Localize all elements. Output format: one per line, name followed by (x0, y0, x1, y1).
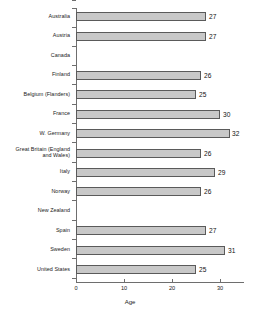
y-axis-tick (72, 8, 76, 9)
age-bar-chart: Australia 27 Austria 27 Canada Finland 2… (0, 0, 260, 319)
bar-value-finland: 26 (204, 71, 211, 80)
bar-value-belgium: 25 (199, 90, 206, 99)
category-label-sweden: Sweden (50, 246, 70, 252)
y-axis-tick (72, 0, 76, 1)
bar-belgium (76, 90, 196, 99)
x-axis-tick-label-0: 0 (66, 285, 86, 292)
category-label-canada: Canada (51, 52, 70, 58)
category-label-new-zealand: New Zealand (38, 207, 70, 213)
category-label-west-germany: W. Germany (40, 130, 70, 136)
bar-spain (76, 226, 206, 235)
plot-area: Australia 27 Austria 27 Canada Finland 2… (0, 0, 260, 319)
category-label-france: France (53, 110, 70, 116)
x-axis-tick (172, 279, 173, 282)
y-axis-tick (72, 142, 76, 143)
bar-value-spain: 27 (209, 226, 216, 235)
x-axis-title: Age (0, 299, 260, 305)
y-axis-tick (72, 46, 76, 47)
category-label-spain: Spain (56, 227, 70, 233)
y-axis-tick (72, 181, 76, 182)
bar-italy (76, 168, 215, 177)
bar-value-united-states: 25 (199, 265, 206, 274)
bar-value-great-britain: 26 (204, 149, 211, 158)
bar-value-australia: 27 (209, 12, 216, 21)
x-axis-tick (76, 279, 77, 282)
bar-value-france: 30 (223, 110, 230, 119)
bar-value-italy: 29 (218, 168, 225, 177)
x-axis-line (76, 282, 244, 283)
x-axis-tick (124, 279, 125, 282)
bar-austria (76, 32, 206, 41)
bar-value-west-germany: 32 (232, 129, 239, 138)
bar-value-norway: 26 (204, 187, 211, 196)
y-axis-tick (72, 65, 76, 66)
bar-australia (76, 12, 206, 21)
category-label-united-states: United States (37, 266, 70, 272)
category-label-australia: Australia (49, 13, 70, 19)
category-label-norway: Norway (51, 188, 70, 194)
bar-united-states (76, 265, 196, 274)
bar-value-sweden: 31 (228, 246, 235, 255)
x-axis-tick-label-30: 30 (210, 285, 230, 292)
bar-norway (76, 187, 201, 196)
y-axis-tick (72, 84, 76, 85)
y-axis-tick (72, 258, 76, 259)
y-axis-tick (72, 104, 76, 105)
y-axis-tick (72, 162, 76, 163)
bar-great-britain (76, 149, 201, 158)
bar-france (76, 110, 220, 119)
category-label-finland: Finland (52, 71, 70, 77)
y-axis-tick (72, 239, 76, 240)
y-axis-tick (72, 123, 76, 124)
category-label-belgium: Belgium (Flanders) (24, 91, 70, 97)
y-axis-tick (72, 200, 76, 201)
x-axis-tick-label-20: 20 (162, 285, 182, 292)
x-axis-tick-label-10: 10 (114, 285, 134, 292)
y-axis-tick (72, 220, 76, 221)
category-label-italy: Italy (60, 168, 70, 174)
category-label-great-britain: Great Britain (England and Wales) (16, 146, 70, 158)
bar-west-germany (76, 129, 230, 138)
y-axis-tick (72, 27, 76, 28)
bar-finland (76, 71, 201, 80)
bar-value-austria: 27 (209, 32, 216, 41)
bar-sweden (76, 246, 225, 255)
category-label-austria: Austria (53, 32, 70, 38)
x-axis-tick (220, 279, 221, 282)
y-axis-line (76, 8, 77, 282)
